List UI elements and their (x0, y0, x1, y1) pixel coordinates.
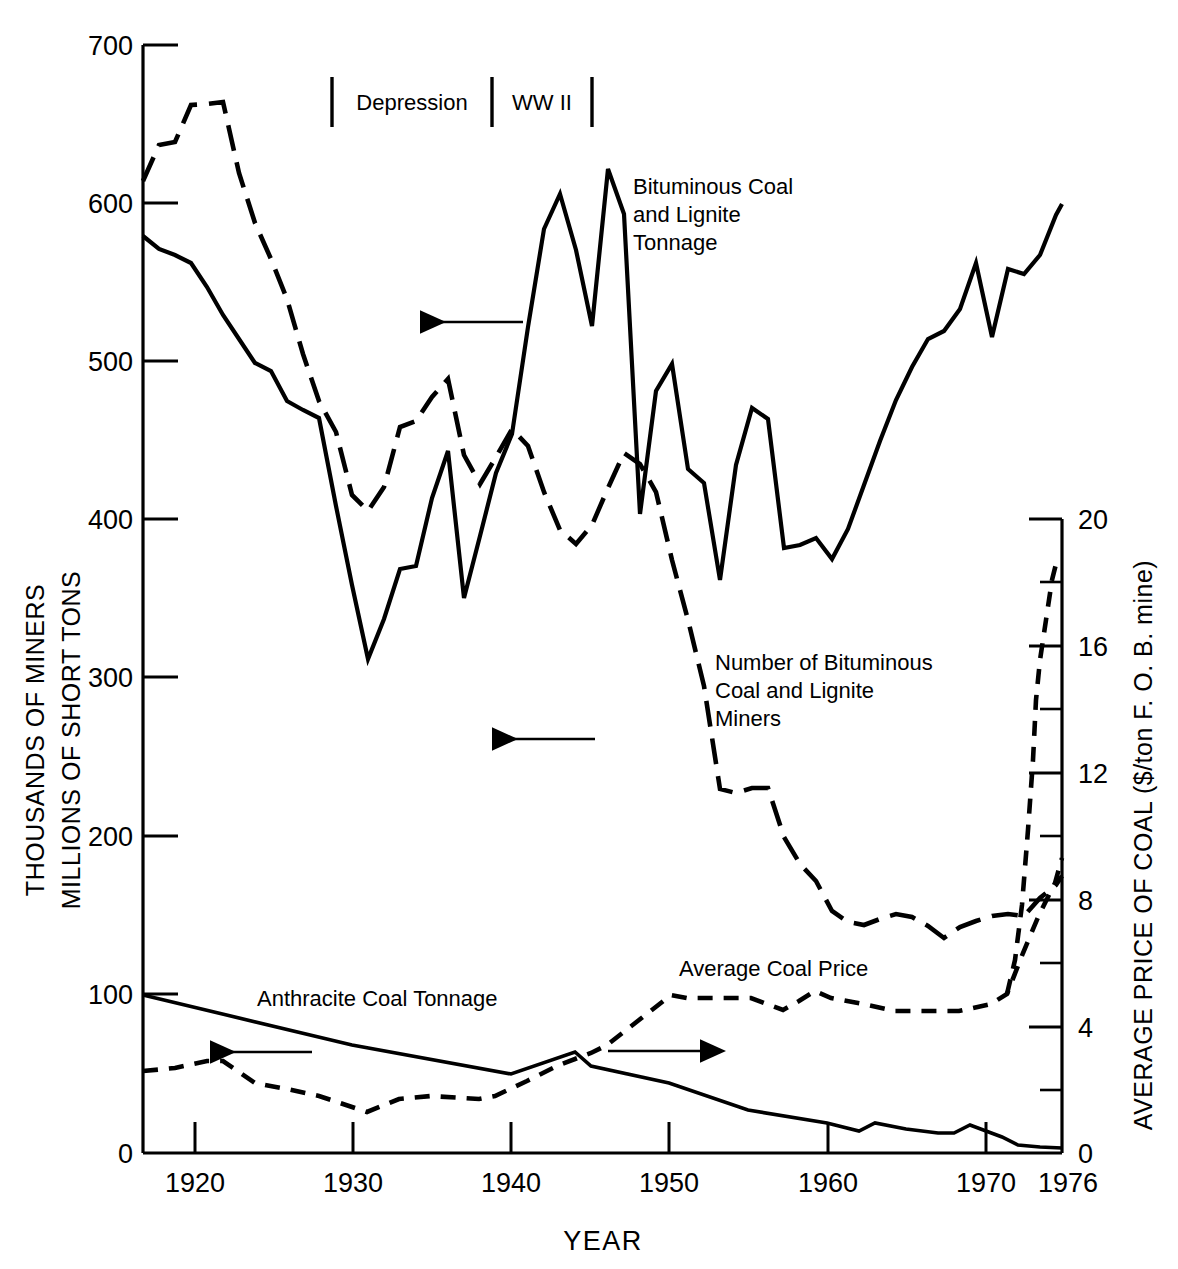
label-miners-line3: Miners (715, 706, 781, 731)
x-tick-label-1940: 1940 (481, 1168, 541, 1198)
label-bituminous-tonnage-line2: and Lignite (633, 202, 741, 227)
chart-background (0, 0, 1178, 1269)
left-tick-label-600: 600 (88, 189, 133, 219)
x-axis-title: YEAR (563, 1226, 643, 1256)
chart-svg: 700 600 500 400 300 200 100 0 THOUSANDS … (0, 0, 1178, 1269)
right-tick-label-20: 20 (1078, 505, 1108, 535)
right-tick-label-16: 16 (1078, 632, 1108, 662)
label-bituminous-tonnage-line3: Tonnage (633, 230, 717, 255)
left-tick-label-200: 200 (88, 822, 133, 852)
left-axis-title-line1: THOUSANDS OF MINERS (21, 584, 49, 896)
right-tick-label-0: 0 (1078, 1139, 1093, 1169)
left-tick-label-500: 500 (88, 347, 133, 377)
chart-figure: 700 600 500 400 300 200 100 0 THOUSANDS … (0, 0, 1178, 1269)
left-tick-label-0: 0 (118, 1139, 133, 1169)
right-axis-title: AVERAGE PRICE OF COAL ($/ton F. O. B. mi… (1129, 560, 1157, 1130)
left-tick-label-400: 400 (88, 505, 133, 535)
x-tick-label-1960: 1960 (798, 1168, 858, 1198)
label-bituminous-tonnage-line1: Bituminous Coal (633, 174, 793, 199)
label-anthracite-tonnage: Anthracite Coal Tonnage (257, 986, 498, 1011)
x-tick-label-1970: 1970 (956, 1168, 1016, 1198)
left-tick-label-700: 700 (88, 31, 133, 61)
label-miners-line2: Coal and Lignite (715, 678, 874, 703)
right-tick-label-8: 8 (1078, 886, 1093, 916)
era-label-wwii: WW II (512, 90, 572, 115)
right-tick-label-4: 4 (1078, 1013, 1093, 1043)
left-tick-label-100: 100 (88, 980, 133, 1010)
x-tick-label-1976: 1976 (1038, 1168, 1098, 1198)
x-tick-label-1930: 1930 (323, 1168, 383, 1198)
x-tick-label-1920: 1920 (165, 1168, 225, 1198)
era-label-depression: Depression (356, 90, 467, 115)
label-miners-line1: Number of Bituminous (715, 650, 933, 675)
label-average-coal-price: Average Coal Price (679, 956, 868, 981)
left-tick-label-300: 300 (88, 663, 133, 693)
x-tick-label-1950: 1950 (639, 1168, 699, 1198)
right-tick-label-12: 12 (1078, 759, 1108, 789)
left-axis-title-line2: MILLIONS OF SHORT TONS (57, 571, 85, 909)
